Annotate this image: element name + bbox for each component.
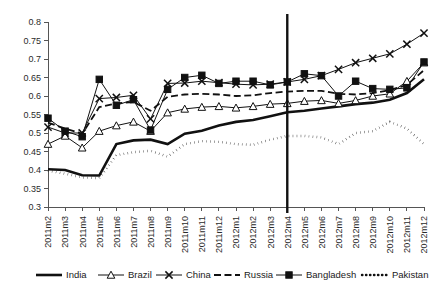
series-line [48,79,424,175]
legend-label: Pakistan [392,269,428,280]
y-tick-label: 0.6 [28,91,41,101]
marker-x [352,59,359,66]
marker-x [335,66,342,73]
line-chart: 0.30.350.40.450.50.550.60.650.70.750.8 2… [0,0,431,293]
y-tick-label: 0.45 [23,147,41,157]
marker-square [318,72,324,78]
legend-label: China [186,269,212,280]
legend-item-pakistan: Pakistan [362,269,428,280]
y-tick-label: 0.7 [28,54,41,64]
marker-x [403,41,410,48]
marker-square [164,86,170,92]
marker-square [79,134,85,140]
series-line [48,122,424,178]
x-axis: 2011m22011m32011m42011m52011m62011m72011… [43,207,429,254]
marker-triangle [130,118,138,125]
marker-square [147,127,153,133]
marker-square [301,71,307,77]
y-tick-label: 0.5 [28,128,41,138]
x-tick-label: 2011m9 [163,216,173,248]
marker-square [370,85,376,91]
marker-square [216,80,222,86]
series-line [48,62,424,137]
x-tick-label: 2012m4 [283,216,293,249]
marker-triangle [95,127,103,134]
x-tick-label: 2012m8 [351,216,361,249]
y-tick-label: 0.3 [28,202,41,212]
x-tick-label: 2011m12 [214,216,224,253]
marker-square [233,78,239,84]
marker-square [182,74,188,80]
marker-square [404,85,410,91]
x-tick-label: 2011m8 [146,216,156,248]
legend-label: Russia [244,269,274,280]
x-tick-label: 2011m4 [78,216,88,248]
x-tick-label: 2012m2 [248,216,258,249]
series-brazil [44,59,428,151]
marker-square [130,97,136,103]
series-pakistan [48,122,424,178]
series-india [48,79,424,175]
marker-square [250,78,256,84]
marker-x [147,115,154,122]
y-tick-label: 0.65 [23,73,41,83]
legend-label: Bangladesh [306,269,356,280]
marker-x [420,30,427,37]
legend-label: India [66,269,87,280]
x-tick-label: 2011m5 [95,216,105,248]
marker-square [267,82,273,88]
x-tick-label: 2012m7 [334,216,344,249]
marker-triangle [44,140,52,147]
marker-x [369,55,376,62]
x-tick-label: 2011m2 [43,216,53,248]
marker-square [96,76,102,82]
x-tick-label: 2012m10 [385,216,395,254]
legend-item-india: India [36,269,87,280]
chart-canvas: 0.30.350.40.450.50.550.60.650.70.750.8 2… [0,0,431,293]
marker-square [387,86,393,92]
marker-square [335,93,341,99]
legend-item-china: China [156,269,212,280]
marker-square [199,72,205,78]
x-tick-label: 2012m3 [266,216,276,249]
y-tick-label: 0.8 [28,17,41,27]
marker-square [113,102,119,108]
x-tick-label: 2012m1 [231,216,241,249]
marker-x [386,50,393,57]
y-tick-label: 0.55 [23,110,41,120]
x-tick-label: 2011m10 [180,216,190,253]
y-tick-label: 0.75 [23,36,41,46]
legend-label: Brazil [128,269,152,280]
y-tick-label: 0.35 [23,184,41,194]
marker-square [421,59,427,65]
x-tick-label: 2012m6 [317,216,327,249]
x-tick-label: 2011m6 [112,216,122,248]
x-tick-label: 2011m3 [60,216,70,248]
marker-square [352,78,358,84]
marker-square [45,115,51,121]
y-tick-label: 0.4 [28,165,41,175]
marker-square [286,272,292,278]
legend-item-brazil: Brazil [98,269,152,280]
x-tick-label: 2012m9 [368,216,378,249]
x-tick-label: 2011m7 [129,216,139,248]
marker-square [62,128,68,134]
plot-frame [48,22,424,207]
series-layer [44,30,428,179]
x-tick-label: 2012m5 [300,216,310,249]
legend-item-bangladesh: Bangladesh [276,269,356,280]
legend-item-russia: Russia [214,269,274,280]
x-tick-label: 2012m12 [419,216,429,254]
chart-legend: IndiaBrazilChinaRussiaBangladeshPakistan [36,269,428,280]
x-tick-label: 2011m11 [197,216,207,252]
x-tick-label: 2012m11 [402,216,412,253]
